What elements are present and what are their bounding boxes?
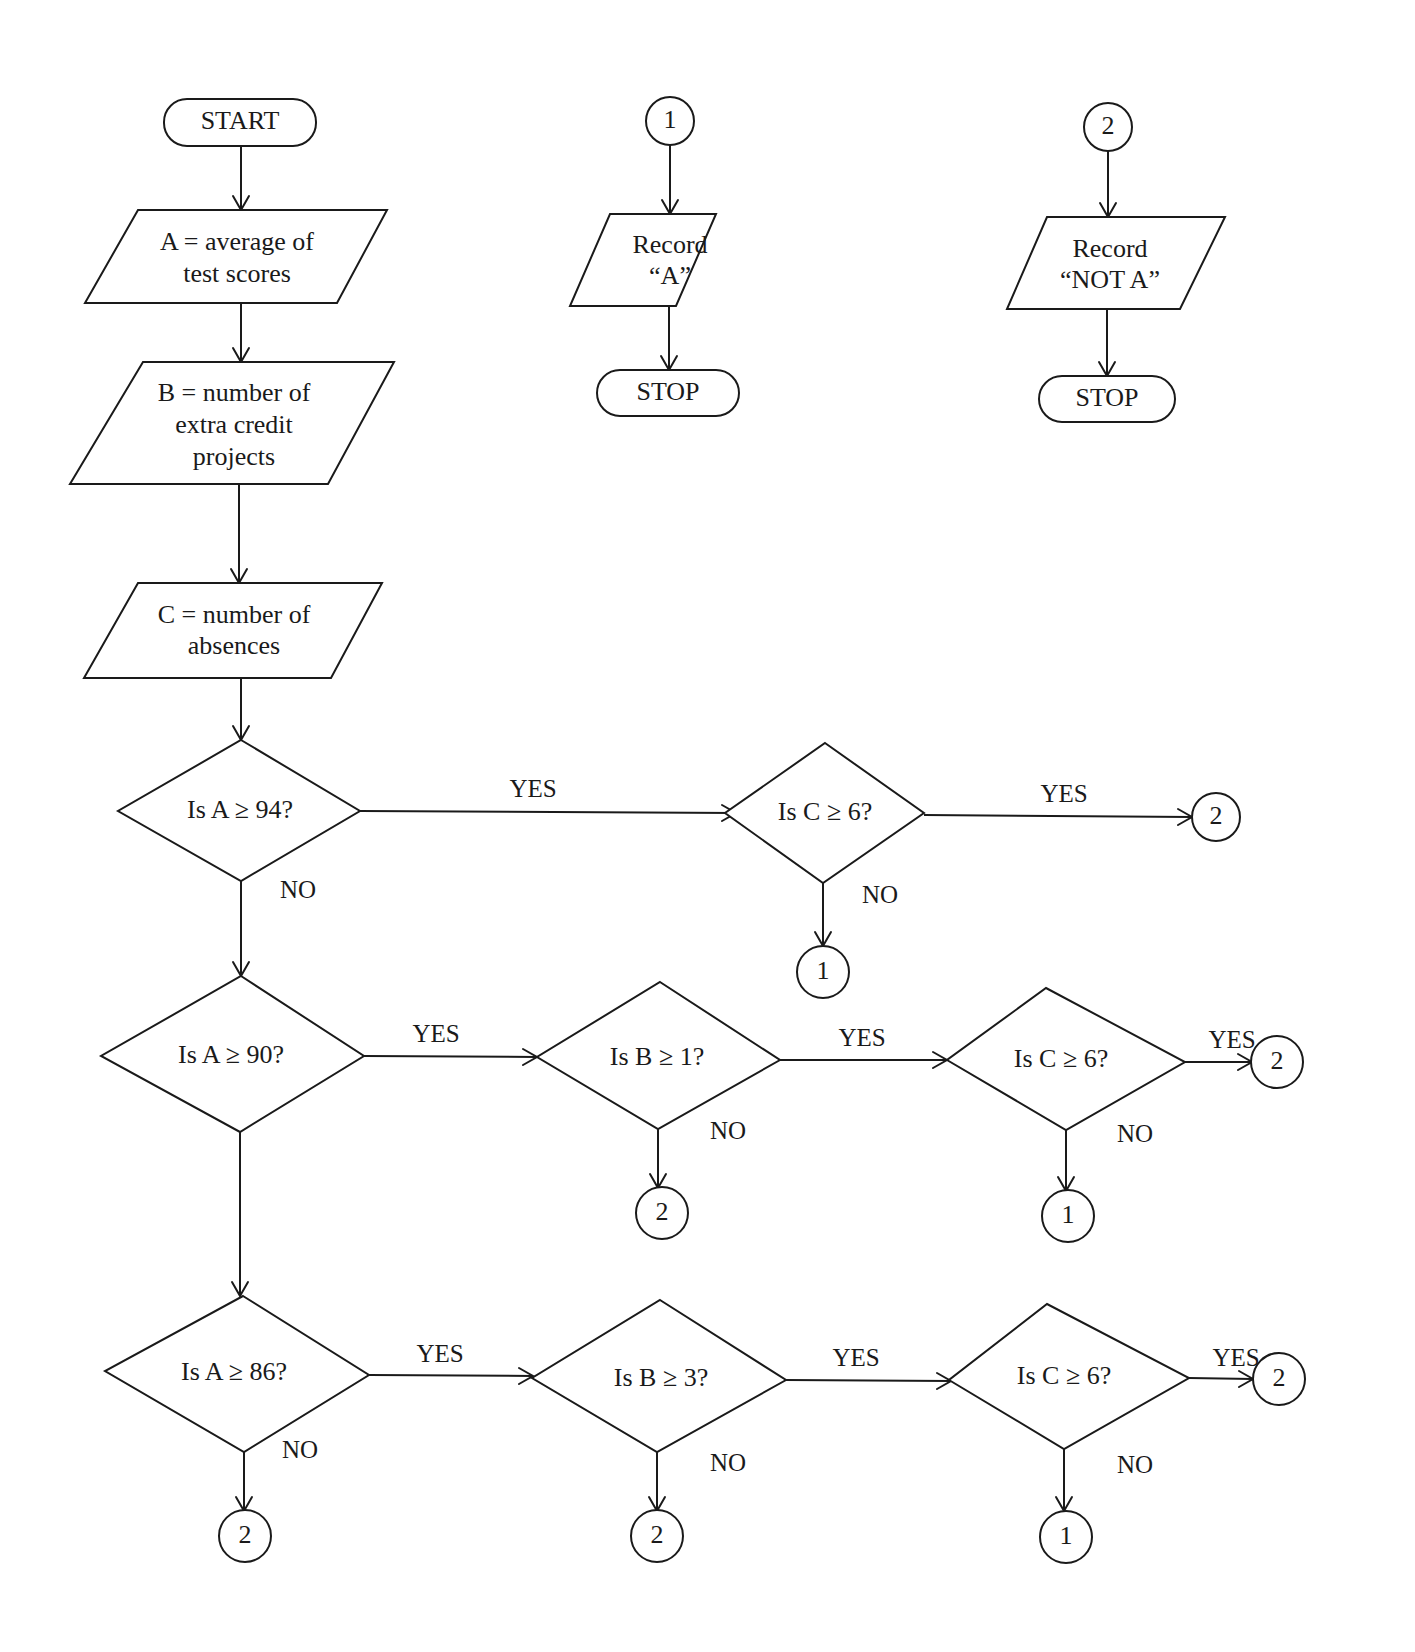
connector-label: 2 [1210,801,1223,830]
connector-label: 2 [1271,1046,1284,1075]
stop-terminal-a: STOP [597,370,739,416]
yes-label: YES [832,1344,879,1371]
connector-2-row2-c-yes: 2 [1251,1036,1303,1088]
record-a-line1: Record [632,230,707,259]
decision-b3-label: Is B ≥ 3? [614,1363,708,1392]
decision-a-ge-86: Is A ≥ 86? [105,1296,369,1452]
decision-a90-label: Is A ≥ 90? [178,1040,284,1069]
connector-2-row3-a-no: 2 [219,1510,271,1562]
yes-label: YES [416,1340,463,1367]
record-not-a-line2: “NOT A” [1060,265,1160,294]
decision-c-ge-6-row2: Is C ≥ 6? [947,988,1185,1130]
input-a-line1: A = average of [160,227,314,256]
decision-a94-label: Is A ≥ 94? [187,795,293,824]
input-b-line3: projects [193,442,275,471]
stop-terminal-not-a: STOP [1039,376,1175,422]
no-label: NO [1117,1120,1153,1147]
yes-label: YES [1212,1344,1259,1371]
output-record-a: Record “A” [570,214,716,306]
no-label: NO [710,1117,746,1144]
connector-2-label: 2 [1102,111,1115,140]
record-not-a-line1: Record [1072,234,1147,263]
yes-label: YES [1040,780,1087,807]
connector-label: 2 [651,1520,664,1549]
start-terminal: START [164,99,316,146]
input-c-line2: absences [188,631,280,660]
decision-c6-row1-label: Is C ≥ 6? [778,797,872,826]
connector-1-row1-no: 1 [797,946,849,998]
no-label: NO [280,876,316,903]
decision-b-ge-3: Is B ≥ 3? [532,1300,786,1452]
connector-label: 2 [656,1197,669,1226]
input-a-line2: test scores [183,259,291,288]
connector-label: 2 [1273,1363,1286,1392]
connector-1-label: 1 [664,105,677,134]
decision-b1-label: Is B ≥ 1? [610,1042,704,1071]
stop-a-label: STOP [636,377,699,406]
connector-2-row3-b-no: 2 [631,1510,683,1562]
no-label: NO [710,1449,746,1476]
connector-2-row2-b-no: 2 [636,1187,688,1239]
decision-c-ge-6-row3: Is C ≥ 6? [949,1304,1189,1449]
stop-not-a-label: STOP [1075,383,1138,412]
connector-2-row1-yes: 2 [1192,793,1240,841]
connector-label: 1 [817,956,830,985]
decision-a86-label: Is A ≥ 86? [181,1357,287,1386]
input-c-line1: C = number of [158,600,311,629]
connector-1-entry: 1 [646,97,694,145]
decision-c6-row2-label: Is C ≥ 6? [1014,1044,1108,1073]
input-c-absences: C = number of absences [84,583,382,678]
no-label: NO [1117,1451,1153,1478]
connector-1-row2-c-no: 1 [1042,1190,1094,1242]
output-record-not-a: Record “NOT A” [1007,217,1225,309]
connector-label: 2 [239,1520,252,1549]
connector-1-row3-c-no: 1 [1040,1511,1092,1563]
no-label: NO [282,1436,318,1463]
yes-label: YES [1208,1026,1255,1053]
decision-a-ge-90: Is A ≥ 90? [101,976,364,1132]
yes-label: YES [509,775,556,802]
yes-label: YES [412,1020,459,1047]
record-a-line2: “A” [649,261,691,290]
decision-b-ge-1: Is B ≥ 1? [537,982,780,1129]
input-b-line2: extra credit [175,410,293,439]
decision-c-ge-6-row1: Is C ≥ 6? [725,743,924,883]
no-label: NO [862,881,898,908]
connector-2-entry: 2 [1084,103,1132,151]
input-b-line1: B = number of [158,378,311,407]
start-label: START [201,106,280,135]
connector-label: 1 [1062,1200,1075,1229]
decision-c6-row3-label: Is C ≥ 6? [1017,1361,1111,1390]
decision-a-ge-94: Is A ≥ 94? [118,740,360,881]
input-b-extra-credit: B = number of extra credit projects [70,362,394,484]
input-a-average: A = average of test scores [85,210,387,303]
connector-2-row3-c-yes: 2 [1253,1353,1305,1405]
yes-label: YES [838,1024,885,1051]
flowchart-canvas: START A = average of test scores B = num… [0,0,1415,1652]
connector-label: 1 [1060,1521,1073,1550]
